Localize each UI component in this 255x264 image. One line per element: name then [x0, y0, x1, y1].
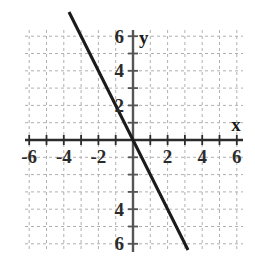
x-tick-label: 4 [197, 146, 207, 167]
x-tick-label: 2 [163, 146, 173, 167]
y-tick-label: 2 [115, 95, 125, 116]
y-tick-label: 4 [115, 199, 125, 220]
y-tick-label: 6 [115, 233, 125, 254]
x-tick-label: 6 [232, 146, 242, 167]
y-tick-label: 6 [115, 26, 125, 47]
coordinate-plane-figure: -6 -4 -2 2 4 6 6 4 2 4 6 y x [0, 0, 255, 264]
y-tick-label: 4 [115, 60, 125, 81]
x-tick-label: -6 [21, 146, 37, 167]
y-axis-label: y [139, 27, 149, 48]
x-axis-label: x [231, 114, 241, 135]
x-tick-label: -4 [56, 146, 72, 167]
x-tick-label: -2 [90, 146, 106, 167]
graph-canvas: -6 -4 -2 2 4 6 6 4 2 4 6 y x [0, 0, 255, 264]
